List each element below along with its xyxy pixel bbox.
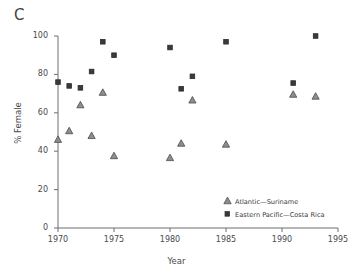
y-tick-label: 100 — [22, 31, 48, 40]
x-tick-label: 1990 — [262, 235, 302, 244]
scatter-chart-figure: C % Female Year 020406080100 19701975198… — [0, 0, 353, 280]
data-point — [179, 87, 184, 92]
y-tick-label: 40 — [22, 146, 48, 155]
data-point — [54, 136, 61, 142]
data-point — [67, 84, 72, 89]
legend-item-atlantic-suriname: Atlantic—Suriname — [222, 196, 325, 209]
y-tick-label: 80 — [22, 69, 48, 78]
x-tick-label: 1995 — [318, 235, 353, 244]
chart-legend: Atlantic—Suriname Eastern Pacific—Costa … — [222, 196, 325, 221]
data-point — [222, 141, 229, 147]
series-triangle — [54, 89, 319, 161]
data-point — [290, 91, 297, 97]
x-tick-label: 1975 — [94, 235, 134, 244]
data-point — [312, 93, 319, 99]
series-square — [56, 34, 318, 91]
y-tick-label: 0 — [22, 223, 48, 232]
data-point — [189, 97, 196, 103]
data-point — [56, 80, 61, 85]
data-point — [166, 154, 173, 160]
legend-label: Atlantic—Suriname — [235, 197, 298, 208]
x-tick-label: 1970 — [38, 235, 78, 244]
data-point — [78, 86, 83, 91]
data-point — [110, 152, 117, 158]
data-point — [313, 34, 318, 39]
data-point — [168, 45, 173, 50]
square-marker-icon — [222, 209, 233, 222]
y-tick-label: 20 — [22, 185, 48, 194]
legend-item-eastern-pacific-costa-rica: Eastern Pacific—Costa Rica — [222, 209, 325, 222]
y-tick-label: 60 — [22, 108, 48, 117]
data-point — [88, 132, 95, 138]
data-point — [89, 69, 94, 74]
data-point — [112, 53, 117, 58]
data-point — [99, 89, 106, 95]
x-tick-label: 1980 — [150, 235, 190, 244]
x-tick-label: 1985 — [206, 235, 246, 244]
data-point — [77, 101, 84, 107]
triangle-marker-icon — [222, 196, 233, 209]
data-point — [224, 39, 229, 44]
data-point — [101, 39, 106, 44]
legend-label: Eastern Pacific—Costa Rica — [235, 210, 325, 221]
data-point — [291, 81, 296, 86]
data-point — [178, 140, 185, 146]
data-point — [66, 127, 73, 133]
data-point — [190, 74, 195, 79]
